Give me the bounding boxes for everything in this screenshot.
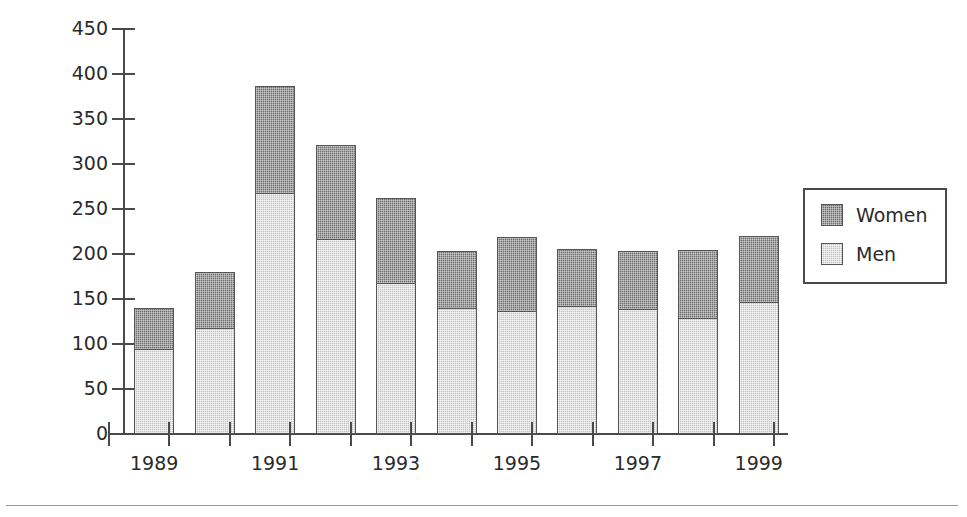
bar-1992: [316, 29, 356, 434]
bar-segment-women-1995: [497, 237, 537, 312]
bar-1999: [739, 29, 779, 434]
bar-segment-men-1999: [739, 302, 779, 434]
y-tick-label-wrap: 250: [0, 199, 108, 218]
x-tick-mark: [229, 422, 231, 446]
bar-segment-men-1995: [497, 311, 537, 434]
bar-segment-men-1996: [557, 306, 597, 434]
y-tick-label-wrap: 400: [0, 64, 108, 83]
x-tick-mark: [168, 422, 170, 446]
y-tick-label: 0: [46, 424, 108, 443]
x-tick-mark: [289, 422, 291, 446]
y-tick-label-wrap: 450: [0, 19, 108, 38]
bar-segment-men-1993: [376, 283, 416, 434]
x-tick-mark: [531, 422, 533, 446]
bar-segment-women-1992: [316, 145, 356, 240]
legend-entry-women: Women: [821, 204, 928, 226]
x-tick-mark: [713, 422, 715, 446]
bar-segment-men-1997: [618, 309, 658, 434]
bar-segment-men-1994: [437, 308, 477, 434]
bar-1990: [195, 29, 235, 434]
y-tick-label: 450: [46, 19, 108, 38]
x-tick-mark: [773, 422, 775, 446]
bar-1994: [437, 29, 477, 434]
x-tick-mark: [108, 422, 110, 446]
bar-segment-men-1990: [195, 328, 235, 434]
y-tick-label: 300: [46, 154, 108, 173]
x-tick-label-1989: 1989: [114, 452, 194, 474]
bar-segment-women-1993: [376, 198, 416, 284]
y-tick-label: 250: [46, 199, 108, 218]
y-tick-label: 400: [46, 64, 108, 83]
bar-1989: [134, 29, 174, 434]
bar-segment-women-1996: [557, 249, 597, 308]
legend: Women Men: [803, 188, 947, 284]
y-tick-label-wrap: 0: [0, 424, 108, 443]
bar-segment-women-1997: [618, 251, 658, 310]
y-tick-label-wrap: 150: [0, 289, 108, 308]
y-tick-label-wrap: 100: [0, 334, 108, 353]
bar-segment-men-1992: [316, 239, 356, 434]
bar-1996: [557, 29, 597, 434]
bar-segment-women-1999: [739, 236, 779, 303]
x-tick-label-1993: 1993: [356, 452, 436, 474]
bar-1995: [497, 29, 537, 434]
y-tick-label-wrap: 50: [0, 379, 108, 398]
x-tick-mark: [410, 422, 412, 446]
y-tick-label: 150: [46, 289, 108, 308]
y-tick-label-wrap: 350: [0, 109, 108, 128]
bar-segment-women-1989: [134, 308, 174, 350]
legend-entry-men: Men: [821, 243, 896, 265]
legend-label-women: Women: [856, 206, 928, 225]
x-tick-mark: [652, 422, 654, 446]
bar-1997: [618, 29, 658, 434]
x-tick-label-1999: 1999: [719, 452, 799, 474]
x-tick-mark: [471, 422, 473, 446]
y-tick-label: 50: [46, 379, 108, 398]
x-tick-mark: [592, 422, 594, 446]
bar-segment-women-1991: [255, 86, 295, 194]
bar-1993: [376, 29, 416, 434]
x-tick-mark: [350, 422, 352, 446]
x-tick-label-1991: 1991: [235, 452, 315, 474]
y-tick-label: 200: [46, 244, 108, 263]
bar-segment-women-1998: [678, 250, 718, 319]
footer-divider: [6, 505, 958, 506]
legend-label-men: Men: [856, 245, 896, 264]
legend-swatch-men-icon: [821, 243, 843, 265]
bar-segment-men-1991: [255, 193, 295, 434]
y-tick-label-wrap: 200: [0, 244, 108, 263]
x-tick-label-1995: 1995: [477, 452, 557, 474]
bar-segment-women-1990: [195, 272, 235, 329]
y-tick-label: 350: [46, 109, 108, 128]
y-tick-label-wrap: 300: [0, 154, 108, 173]
bar-1991: [255, 29, 295, 434]
chart-figure: 450400350300250200150100500 (1000s) 1989…: [0, 0, 967, 517]
bar-segment-men-1998: [678, 318, 718, 434]
legend-swatch-women-icon: [821, 204, 843, 226]
plot-area: [124, 29, 789, 434]
bar-segment-women-1994: [437, 251, 477, 309]
y-tick-label: 100: [46, 334, 108, 353]
x-tick-label-1997: 1997: [598, 452, 678, 474]
bar-1998: [678, 29, 718, 434]
